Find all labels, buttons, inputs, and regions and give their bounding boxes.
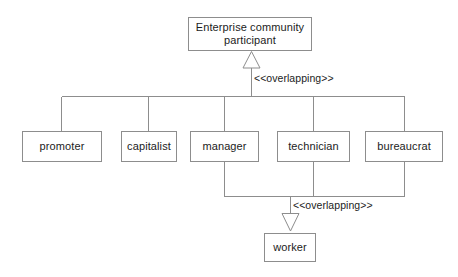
class-name-label: Enterprise community participant: [192, 21, 308, 47]
class-name-label: bureaucrat: [373, 140, 435, 153]
generalization-arrowhead-bottom: [282, 214, 299, 232]
generalization-arrowhead-top: [243, 52, 260, 69]
uml-class-diagram: Enterprise community participant promote…: [0, 0, 458, 277]
class-name-label: worker: [269, 241, 311, 254]
class-box-worker[interactable]: worker: [264, 233, 316, 262]
class-box-capitalist[interactable]: capitalist: [121, 131, 177, 162]
class-box-bureaucrat[interactable]: bureaucrat: [365, 131, 443, 162]
class-name-label: technician: [284, 140, 343, 153]
constraint-label-overlapping-top: <<overlapping>>: [254, 72, 334, 84]
class-box-technician[interactable]: technician: [277, 131, 350, 162]
class-name-label: capitalist: [123, 140, 175, 153]
class-name-label: manager: [198, 140, 250, 153]
class-box-promoter[interactable]: promoter: [22, 131, 102, 162]
class-box-manager[interactable]: manager: [190, 131, 259, 162]
class-name-label: promoter: [36, 140, 89, 153]
class-box-enterprise-community-participant[interactable]: Enterprise community participant: [188, 17, 312, 51]
constraint-label-overlapping-bottom: <<overlapping>>: [293, 199, 373, 211]
